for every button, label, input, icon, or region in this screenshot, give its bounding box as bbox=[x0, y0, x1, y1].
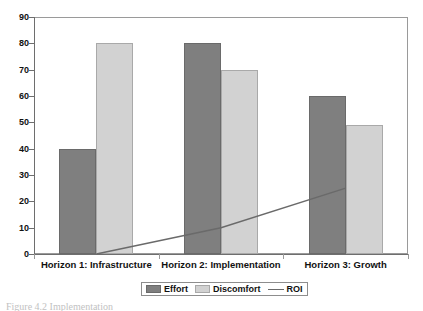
legend-label-roi: ROI bbox=[287, 285, 303, 294]
bar-line-combo-chart: 0102030405060708090 Horizon 1: Infrastru… bbox=[0, 0, 423, 311]
legend-label-effort: Effort bbox=[164, 285, 188, 294]
y-tick-label-70: 70 bbox=[19, 66, 29, 75]
x-category-label-3: Horizon 3: Growth bbox=[283, 259, 408, 271]
y-tick-label-20: 20 bbox=[19, 197, 29, 206]
y-tick-label-30: 30 bbox=[19, 171, 29, 180]
y-tick-label-60: 60 bbox=[19, 92, 29, 101]
legend-swatch-icon-effort bbox=[146, 285, 161, 293]
roi-polyline bbox=[96, 188, 345, 254]
roi-line-series bbox=[34, 17, 408, 255]
figure-caption: Figure 4.2 Implementation bbox=[6, 301, 206, 311]
x-tick-3 bbox=[408, 254, 409, 259]
y-tick-label-10: 10 bbox=[19, 224, 29, 233]
legend-item-effort[interactable]: Effort bbox=[146, 285, 188, 294]
y-tick-label-40: 40 bbox=[19, 145, 29, 154]
x-category-label-1: Horizon 1: Infrastructure bbox=[34, 259, 159, 271]
legend-item-discomfort[interactable]: Discomfort bbox=[195, 285, 261, 294]
legend-item-roi[interactable]: ROI bbox=[268, 285, 303, 294]
x-category-label-2: Horizon 2: Implementation bbox=[159, 259, 284, 271]
legend-label-discomfort: Discomfort bbox=[213, 285, 261, 294]
chart-legend: EffortDiscomfortROI bbox=[141, 282, 308, 296]
y-tick-label-80: 80 bbox=[19, 39, 29, 48]
y-tick-label-50: 50 bbox=[19, 118, 29, 127]
y-tick-label-90: 90 bbox=[19, 13, 29, 22]
legend-swatch-icon-discomfort bbox=[195, 285, 210, 293]
y-tick-label-0: 0 bbox=[24, 250, 29, 259]
legend-line-marker-icon bbox=[268, 289, 284, 290]
